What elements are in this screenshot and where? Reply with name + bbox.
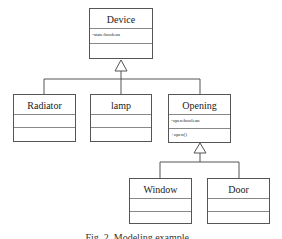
class-name: Radiator: [14, 95, 75, 115]
class-name: Door: [208, 179, 269, 199]
class-attribute: -open:boolean: [169, 115, 230, 129]
class-name: lamp: [91, 95, 151, 115]
class-name: Device: [90, 9, 152, 29]
class-door: Door: [207, 178, 270, 224]
class-operation: +open(): [169, 129, 230, 140]
class-operations: [14, 128, 75, 132]
class-lamp: lamp: [90, 94, 152, 142]
figure-caption: Fig. 2. Modeling example...: [0, 232, 282, 239]
class-attributes: [14, 115, 75, 128]
class-operations: [130, 212, 191, 216]
class-window: Window: [129, 178, 192, 224]
class-name: Opening: [169, 95, 230, 115]
class-opening: Opening -open:boolean +open(): [168, 94, 231, 143]
class-name: Window: [130, 179, 191, 199]
class-operations: [90, 44, 152, 48]
class-operations: [208, 212, 269, 216]
class-attributes: [208, 199, 269, 212]
class-attribute: -state:boolean: [90, 29, 152, 44]
class-attributes: [130, 199, 191, 212]
class-radiator: Radiator: [13, 94, 76, 142]
class-device: Device -state:boolean: [89, 8, 153, 59]
class-operations: [91, 128, 151, 132]
class-attributes: [91, 115, 151, 128]
